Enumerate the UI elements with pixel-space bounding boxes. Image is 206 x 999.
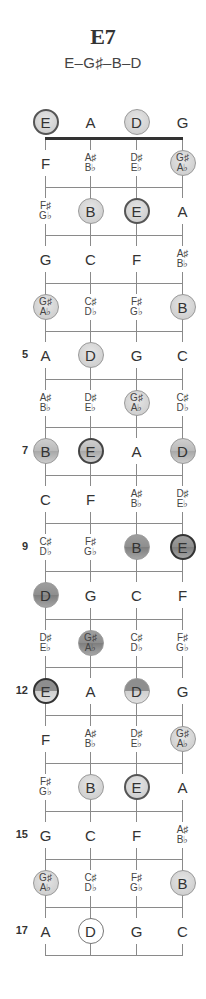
note-label-fret15-string3: A♯B♭: [170, 822, 196, 848]
note-label-fret4-string1: C♯D♭: [78, 294, 104, 320]
note-name-flat: A♭: [40, 883, 52, 893]
chord-tone-marker-fret17-string1: D: [78, 918, 104, 944]
note-label-fret11-string3: F♯G♭: [170, 630, 196, 656]
note-label-fret8-string0: C: [33, 486, 59, 512]
note-name: A: [40, 348, 50, 363]
note-label-fret8-string3: D♯E♭: [170, 486, 196, 512]
note-label-fret7-string2: A: [124, 438, 150, 464]
note-name: G: [131, 924, 143, 939]
note-name-flat: B♭: [85, 739, 97, 749]
fret-line: [45, 763, 183, 764]
note-label-fret13-string0: F: [33, 726, 59, 752]
note-label-fret10-string1: G: [78, 582, 104, 608]
note-name-flat: A♭: [131, 403, 143, 413]
chord-tone-marker-fret0-string0: E: [33, 109, 59, 135]
note-name-flat: G♭: [39, 211, 52, 221]
note-label-fret11-string0: D♯E♭: [33, 630, 59, 656]
note-label-fret1-string1: A♯B♭: [78, 150, 104, 176]
note-label-fret17-string2: G: [124, 918, 150, 944]
fret-line: [45, 379, 183, 380]
note-name-flat: D♭: [84, 307, 96, 317]
note-name: D: [85, 924, 96, 939]
note-label-fret5-string2: G: [124, 342, 150, 368]
note-name-flat: G♭: [39, 787, 52, 797]
nut: [45, 137, 183, 140]
fret-line: [45, 235, 183, 236]
fret-line: [45, 859, 183, 860]
fretboard-diagram: 579121517EADGFA♯B♭D♯E♭G♯A♭F♯G♭BEAGCFA♯B♭…: [0, 0, 206, 999]
note-name: E: [40, 115, 50, 130]
note-name: F: [132, 828, 141, 843]
note-name: C: [177, 924, 188, 939]
note-name: B: [177, 876, 187, 891]
note-name-flat: D♭: [39, 547, 51, 557]
note-label-fret1-string0: F: [33, 150, 59, 176]
fret-line: [45, 715, 183, 716]
note-name: A: [40, 924, 50, 939]
chord-tone-marker-fret1-string3: G♯A♭: [170, 150, 196, 176]
note-label-fret5-string3: C: [170, 342, 196, 368]
note-name-flat: D♭: [176, 403, 188, 413]
note-name-flat: B♭: [40, 403, 52, 413]
note-label-fret12-string3: G: [170, 678, 196, 704]
fret-line: [45, 427, 183, 428]
note-name-flat: B♭: [131, 499, 143, 509]
note-name: G: [131, 348, 143, 363]
note-label-fret14-string3: A: [170, 774, 196, 800]
note-name: G: [40, 252, 52, 267]
note-name-flat: A♭: [85, 643, 97, 653]
note-label-fret5-string0: A: [33, 342, 59, 368]
note-name-flat: G♭: [130, 883, 143, 893]
note-label-fret10-string3: F: [170, 582, 196, 608]
note-name-flat: E♭: [131, 739, 143, 749]
note-name: G: [177, 684, 189, 699]
note-name: B: [177, 300, 187, 315]
chord-tone-marker-fret0-string2: D: [124, 109, 150, 135]
note-label-fret3-string2: F: [124, 246, 150, 272]
note-label-fret12-string1: A: [78, 678, 104, 704]
note-name: G: [40, 828, 52, 843]
note-label-fret16-string2: F♯G♭: [124, 870, 150, 896]
note-label-fret4-string2: F♯G♭: [124, 294, 150, 320]
note-label-fret15-string0: G: [33, 822, 59, 848]
fret-number-12: 12: [6, 684, 28, 696]
note-name: E: [131, 204, 141, 219]
note-name: C: [40, 492, 51, 507]
chord-tone-marker-fret16-string0: G♯A♭: [33, 870, 59, 896]
note-name-flat: D♭: [130, 643, 142, 653]
note-name: F: [178, 588, 187, 603]
note-label-fret6-string0: A♯B♭: [33, 390, 59, 416]
note-label-fret16-string1: C♯D♭: [78, 870, 104, 896]
note-name-flat: A♭: [40, 307, 52, 317]
note-label-fret2-string0: F♯G♭: [33, 198, 59, 224]
fret-number-7: 7: [6, 444, 28, 456]
fret-line: [45, 667, 183, 668]
note-name: A: [177, 204, 187, 219]
chord-tone-marker-fret12-string2: D: [124, 678, 150, 704]
chord-tone-marker-fret7-string0: B: [33, 438, 59, 464]
note-label-fret13-string2: D♯E♭: [124, 726, 150, 752]
note-label-fret17-string0: A: [33, 918, 59, 944]
note-name-flat: E♭: [177, 499, 189, 509]
note-name-flat: B♭: [177, 835, 189, 845]
note-name-flat: G♭: [130, 307, 143, 317]
note-name-flat: B♭: [177, 259, 189, 269]
fret-line: [45, 571, 183, 572]
chord-tone-marker-fret14-string2: E: [124, 774, 150, 800]
note-label-fret3-string0: G: [33, 246, 59, 272]
fret-line: [45, 811, 183, 812]
note-label-fret3-string1: C: [78, 246, 104, 272]
fret-number-17: 17: [6, 924, 28, 936]
chord-tone-marker-fret12-string0: E: [33, 678, 59, 704]
note-label-fret3-string3: A♯B♭: [170, 246, 196, 272]
fret-line: [45, 475, 183, 476]
note-name: D: [131, 115, 142, 130]
fret-number-15: 15: [6, 828, 28, 840]
chord-tone-marker-fret4-string0: G♯A♭: [33, 294, 59, 320]
note-label-fret8-string2: A♯B♭: [124, 486, 150, 512]
note-name: D: [85, 348, 96, 363]
note-name: B: [85, 204, 95, 219]
note-label-fret17-string3: C: [170, 918, 196, 944]
note-name: C: [131, 588, 142, 603]
note-name: A: [85, 115, 95, 130]
